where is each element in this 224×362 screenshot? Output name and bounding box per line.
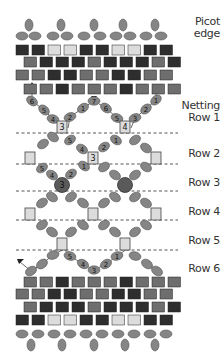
picot-bead xyxy=(151,19,159,31)
picot-bead xyxy=(160,330,172,338)
cylinder-bead xyxy=(112,315,125,325)
cylinder-bead xyxy=(16,315,29,325)
accent-bead: 3 xyxy=(88,152,98,164)
cylinder-bead xyxy=(88,277,101,287)
picot-bead xyxy=(47,32,59,40)
cylinder-bead xyxy=(88,302,101,312)
cylinder-bead xyxy=(48,70,61,80)
picot-bead xyxy=(110,32,122,40)
cylinder-bead xyxy=(168,302,181,312)
picot-bead xyxy=(121,339,129,351)
bead-number: 4 xyxy=(122,123,127,132)
cylinder-bead xyxy=(96,70,109,80)
seed-bead: 3 xyxy=(88,266,100,275)
label-picot: Picot edge xyxy=(186,16,220,40)
seed-bead xyxy=(24,264,39,278)
cylinder-bead xyxy=(72,277,85,287)
cylinder-bead xyxy=(168,84,181,94)
cylinder-bead xyxy=(136,84,149,94)
accent-bead: 4 xyxy=(120,121,130,133)
seed-bead: 5 xyxy=(63,133,78,147)
label-row3: Row 3 xyxy=(180,177,220,189)
bead-number: 1 xyxy=(115,253,119,261)
picot-bead xyxy=(57,19,65,31)
picot-bead xyxy=(61,32,73,40)
cylinder-bead xyxy=(72,84,85,94)
seed-bead xyxy=(108,225,123,239)
seed-bead xyxy=(128,133,143,147)
cylinder-bead xyxy=(160,315,173,325)
cylinder-bead xyxy=(152,302,165,312)
cylinder-bead xyxy=(128,45,141,55)
cylinder-bead xyxy=(16,289,29,299)
cylinder-bead xyxy=(128,315,141,325)
picot-bead xyxy=(124,32,136,40)
seed-bead xyxy=(64,225,79,239)
bead-number: 5 xyxy=(42,107,46,115)
bead-number: 2 xyxy=(104,261,108,269)
bead-number: 6 xyxy=(104,105,109,113)
cylinder-bead xyxy=(144,45,157,55)
accent-bead xyxy=(25,152,35,164)
accent-bead xyxy=(151,208,161,220)
label-row1: Netting Row 1 xyxy=(172,100,220,124)
cylinder-bead xyxy=(136,277,149,287)
picot-bead xyxy=(29,32,41,40)
cylinder-bead xyxy=(40,277,53,287)
bead-number: 2 xyxy=(102,144,106,152)
bead-number: 4 xyxy=(81,261,86,269)
cylinder-bead xyxy=(152,277,165,287)
bead-number: 3 xyxy=(133,115,137,123)
cylinder-bead xyxy=(96,289,109,299)
brick-stitch-band xyxy=(16,45,181,325)
cylinder-bead xyxy=(48,315,61,325)
seed-bead: 6 xyxy=(25,94,40,108)
picot-bead xyxy=(128,330,140,338)
cylinder-bead xyxy=(56,302,69,312)
round-bead xyxy=(118,178,133,193)
bead-number: 2 xyxy=(144,106,148,114)
label-row4: Row 4 xyxy=(180,206,220,218)
cylinder-bead xyxy=(112,289,125,299)
cylinder-bead xyxy=(80,289,93,299)
seed-bead: 4 xyxy=(75,142,90,156)
cylinder-bead xyxy=(136,57,149,67)
cylinder-bead xyxy=(80,45,93,55)
seed-bead: 5 xyxy=(63,250,77,261)
picot-bead xyxy=(90,19,98,31)
seed-bead xyxy=(108,190,123,204)
bead-number: 5 xyxy=(115,115,119,123)
cylinder-bead xyxy=(88,84,101,94)
cylinder-bead xyxy=(56,57,69,67)
picot-bead xyxy=(25,19,33,31)
cylinder-bead xyxy=(16,45,29,55)
cylinder-bead xyxy=(64,289,77,299)
cylinder-bead xyxy=(104,84,117,94)
seed-bead xyxy=(35,257,50,271)
picot-bead xyxy=(151,339,159,351)
cylinder-bead xyxy=(32,315,45,325)
cylinder-bead xyxy=(160,289,173,299)
cylinder-bead xyxy=(112,70,125,80)
cylinder-bead xyxy=(80,70,93,80)
bead-number: 6 xyxy=(30,98,35,106)
cylinder-bead xyxy=(64,45,77,55)
picot-bead xyxy=(94,32,106,40)
cylinder-bead xyxy=(88,57,101,67)
picot-bead xyxy=(140,32,152,40)
accent-bead xyxy=(25,208,35,220)
cylinder-bead xyxy=(152,84,165,94)
seed-bead: 7 xyxy=(88,97,100,106)
accent-bead: 3 xyxy=(57,121,67,133)
cylinder-bead xyxy=(72,302,85,312)
picot-bead xyxy=(155,32,167,40)
seed-bead: 2 xyxy=(97,140,112,154)
cylinder-bead xyxy=(152,57,165,67)
cylinder-bead xyxy=(168,57,181,67)
picot-bead xyxy=(112,330,124,338)
picot-bead xyxy=(64,330,76,338)
seed-bead xyxy=(97,196,112,210)
cylinder-bead xyxy=(64,315,77,325)
cylinder-bead xyxy=(160,45,173,55)
seed-bead xyxy=(64,190,79,204)
